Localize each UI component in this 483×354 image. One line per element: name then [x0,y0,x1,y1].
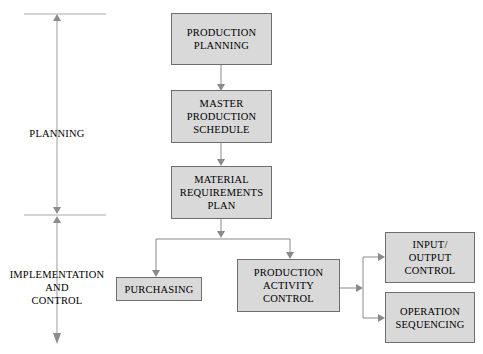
node-operation-sequencing[interactable]: OPERATION SEQUENCING [385,292,475,343]
implementation-arrowhead-down [53,333,61,344]
node-production-activity-control[interactable]: PRODUCTION ACTIVITY CONTROL [237,259,340,312]
node-material-requirements-plan[interactable]: MATERIAL REQUIREMENTS PLAN [171,166,272,219]
node-production-planning-label: PRODUCTION PLANNING [187,26,257,52]
arrowhead-to-operation-sequencing [378,314,385,322]
node-purchasing-label: PURCHASING [124,283,193,296]
node-operation-sequencing-label: OPERATION SEQUENCING [395,305,464,331]
phase-label-implementation-and-control-text: IMPLEMENTATION AND CONTROL [10,269,105,306]
node-material-requirements-plan-label: MATERIAL REQUIREMENTS PLAN [180,173,263,212]
node-production-planning[interactable]: PRODUCTION PLANNING [171,13,272,65]
arrowhead-to-purchasing [152,270,160,277]
node-input-output-control-label: INPUT/ OUTPUT CONTROL [405,238,456,277]
phase-label-planning: PLANNING [0,114,114,140]
node-master-production-schedule-label: MASTER PRODUCTION SCHEDULE [187,97,257,136]
arrowhead-mrp-split [217,231,225,238]
node-purchasing[interactable]: PURCHASING [116,277,202,301]
phase-label-planning-text: PLANNING [29,128,84,139]
node-input-output-control[interactable]: INPUT/ OUTPUT CONTROL [385,232,475,283]
node-master-production-schedule[interactable]: MASTER PRODUCTION SCHEDULE [171,90,272,143]
flowchart-diagram: PLANNING IMPLEMENTATION AND CONTROL PROD… [0,0,483,354]
node-production-activity-control-label: PRODUCTION ACTIVITY CONTROL [254,266,324,305]
arrowhead-mps-to-mrp [217,159,225,166]
arrowhead-to-pac [286,252,294,259]
implementation-arrowhead-up [53,216,61,223]
planning-arrowhead-down [53,207,61,214]
arrowhead-to-io-control [378,253,385,261]
planning-arrowhead-up [53,14,61,21]
arrowhead-pac-right [356,284,363,292]
phase-label-implementation-and-control: IMPLEMENTATION AND CONTROL [0,255,114,307]
